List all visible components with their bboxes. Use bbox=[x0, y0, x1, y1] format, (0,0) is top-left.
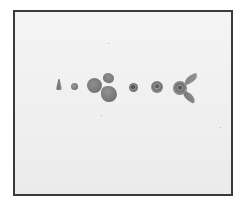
clay-flat-disc bbox=[87, 78, 102, 93]
clay-finished-rose bbox=[173, 81, 187, 95]
clay-petal-top bbox=[102, 72, 115, 85]
clay-cone bbox=[56, 79, 62, 90]
clay-petal-bottom bbox=[101, 86, 117, 102]
clay-small-rose bbox=[151, 81, 163, 93]
dust-speck bbox=[108, 43, 109, 44]
photo-frame bbox=[13, 10, 233, 196]
clay-ball bbox=[71, 83, 78, 90]
dust-speck bbox=[101, 115, 102, 116]
clay-rolled-bud bbox=[129, 83, 138, 92]
dust-speck bbox=[220, 127, 221, 128]
